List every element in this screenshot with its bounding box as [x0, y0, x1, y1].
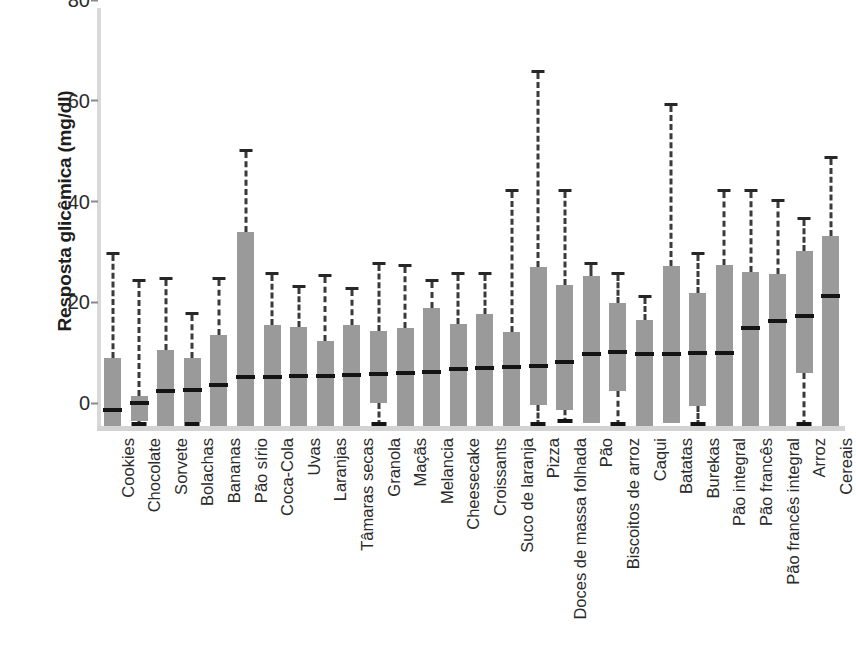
whisker-upper: [244, 152, 247, 233]
whisker-cap-upper: [718, 189, 731, 192]
median-line: [821, 294, 840, 298]
whisker-cap-upper: [292, 285, 305, 288]
box-iqr: [503, 332, 520, 426]
x-tick-label: Chocolate: [145, 438, 164, 512]
whisker-upper: [829, 159, 832, 236]
box-plot-item: [450, 8, 467, 426]
x-tick-label: Pão francês integral: [784, 438, 803, 585]
box-iqr: [636, 320, 653, 426]
whisker-cap-upper: [638, 295, 651, 298]
whisker-cap-upper: [611, 272, 624, 275]
whisker-upper: [138, 282, 141, 395]
box-plot-item: [423, 8, 440, 426]
box-iqr: [397, 328, 414, 426]
x-tick-label: Laranjas: [331, 438, 350, 501]
x-tick-label: Cookies: [119, 438, 138, 498]
median-line: [555, 360, 574, 364]
median-line: [183, 388, 202, 392]
box-iqr: [663, 266, 680, 424]
x-tick-label: Bananas: [225, 438, 244, 503]
whisker-cap-upper: [798, 217, 811, 220]
box-iqr: [450, 324, 467, 426]
whisker-cap-lower: [371, 422, 386, 426]
whisker-upper: [590, 265, 593, 276]
median-line: [688, 351, 707, 355]
whisker-cap-upper: [399, 264, 412, 267]
whisker-upper: [297, 288, 300, 327]
median-line: [795, 314, 814, 318]
whisker-upper: [537, 73, 540, 267]
median-line: [449, 367, 468, 371]
whisker-cap-upper: [266, 272, 279, 275]
whisker-upper: [377, 265, 380, 331]
whisker-cap-lower: [185, 422, 200, 426]
box-plot-item: [210, 8, 227, 426]
median-line: [209, 383, 228, 387]
box-plot-item: [689, 8, 706, 426]
whisker-cap-upper: [425, 279, 438, 282]
x-tick-label: Caqui: [651, 438, 670, 481]
box-iqr: [530, 267, 547, 404]
box-iqr: [796, 251, 813, 373]
median-line: [103, 408, 122, 412]
whisker-cap-upper: [532, 70, 545, 73]
whisker-cap-upper: [319, 274, 332, 277]
whisker-upper: [457, 275, 460, 324]
whisker-upper: [191, 315, 194, 358]
y-tick-mark: [91, 0, 98, 1]
whisker-upper: [803, 220, 806, 251]
whisker-lower: [616, 391, 619, 426]
whisker-cap-lower: [531, 422, 546, 426]
y-tick-mark: [91, 301, 98, 303]
x-tick-label: Pão integral: [730, 438, 749, 526]
whisker-cap-upper: [585, 262, 598, 265]
x-tick-label: Burekas: [704, 438, 723, 499]
median-line: [422, 370, 441, 374]
whisker-upper: [616, 275, 619, 303]
whisker-cap-upper: [691, 252, 704, 255]
box-iqr: [370, 331, 387, 403]
whisker-cap-lower: [557, 419, 572, 423]
x-tick-label: Pão francês: [757, 438, 776, 526]
y-tick-60: 60: [68, 89, 99, 112]
y-tick-80: 80: [68, 0, 99, 12]
median-line: [741, 326, 760, 330]
x-tick-label: Pizza: [544, 438, 563, 478]
x-tick-label: Cereais: [837, 438, 856, 495]
whisker-cap-upper: [744, 189, 757, 192]
whisker-cap-upper: [558, 189, 571, 192]
whisker-upper: [350, 290, 353, 325]
x-tick-label: Arroz: [810, 438, 829, 477]
whisker-upper: [324, 277, 327, 341]
box-plot-item: [556, 8, 573, 426]
box-plot-item: [317, 8, 334, 426]
x-axis-line: [97, 426, 845, 431]
whisker-upper: [670, 106, 673, 266]
y-tick-mark: [91, 402, 98, 404]
box-plot-item: [822, 8, 839, 426]
x-tick-label: Uvas: [305, 438, 324, 476]
x-tick-label: Granola: [385, 438, 404, 497]
median-line: [502, 365, 521, 369]
box-iqr: [476, 314, 493, 426]
y-tick-mark: [91, 100, 98, 102]
box-iqr: [609, 303, 626, 391]
whisker-upper: [164, 280, 167, 351]
box-iqr: [423, 308, 440, 426]
whisker-cap-upper: [478, 272, 491, 275]
median-line: [369, 372, 388, 376]
box-plot-item: [343, 8, 360, 426]
median-line: [608, 350, 627, 354]
median-line: [289, 374, 308, 378]
whisker-upper: [483, 275, 486, 314]
box-plot-item: [796, 8, 813, 426]
x-tick-label: Tâmaras secas: [358, 438, 377, 551]
box-iqr: [131, 396, 148, 421]
y-tick-40: 40: [68, 190, 99, 213]
y-tick-mark: [91, 201, 98, 203]
box-plot-item: [769, 8, 786, 426]
y-tick-20: 20: [68, 291, 99, 314]
box-plot-item: [742, 8, 759, 426]
whisker-upper: [217, 280, 220, 335]
x-tick-label: Melancia: [438, 438, 457, 504]
